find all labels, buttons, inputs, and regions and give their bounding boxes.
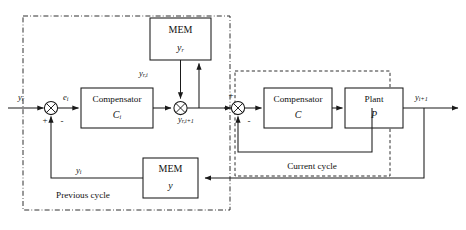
compensator-curr-subtitle: C	[295, 109, 302, 120]
plant-title: Plant	[365, 94, 384, 104]
mem-upper-title: MEM	[169, 24, 193, 35]
sign-prev-plus: +	[42, 115, 47, 125]
label-feedback-prev: yi	[75, 165, 82, 176]
compensator-prev-title: Compensator	[93, 94, 142, 104]
label-output-next: yi+1	[414, 92, 428, 103]
previous-cycle-label: Previous cycle	[56, 190, 110, 200]
sign-curr-minus: -	[248, 116, 251, 126]
plant-subtitle: P	[370, 109, 377, 120]
label-input-ref: yr	[17, 92, 25, 103]
sign-prev-minus: -	[61, 116, 64, 126]
block-diagram: MEM yr Compensator Ci MEM y yr ei	[0, 0, 466, 230]
compensator-curr-title: Compensator	[274, 94, 323, 104]
label-error-prev: ei	[63, 92, 69, 103]
mem-lower-title: MEM	[159, 163, 183, 174]
label-sum-ref-next: yr,i+1	[177, 114, 194, 125]
diagram-canvas: MEM yr Compensator Ci MEM y yr ei	[0, 0, 466, 230]
mem-lower-subtitle: y	[167, 180, 173, 191]
label-mem-ref-out: yr,i	[138, 68, 148, 79]
sign-curr-plus: +	[228, 90, 233, 100]
current-cycle-label: Current cycle	[287, 161, 337, 171]
